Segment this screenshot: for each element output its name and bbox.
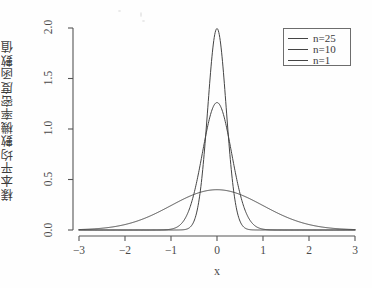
- scan-artifact: [142, 20, 145, 22]
- x-tick-label-3: 0: [208, 244, 226, 256]
- y-tick-label-0: 0.0: [42, 218, 54, 242]
- y-tick-label-4: 2.0: [42, 15, 54, 39]
- y-tick-label-1: 0.5: [42, 167, 54, 191]
- x-axis-title: x: [203, 264, 231, 279]
- scan-artifact: [140, 12, 142, 17]
- x-tick-label-4: 1: [254, 244, 272, 256]
- x-tick-label-0: −3: [70, 244, 88, 256]
- legend-label-2: n=1: [313, 55, 330, 66]
- legend-line-icon: [288, 38, 308, 39]
- legend-line-icon: [288, 60, 308, 61]
- chart-figure: 0.0 0.5 1.0 1.5 2.0 −3 −2 −1 0 1 2 3 x 樣…: [0, 0, 372, 288]
- legend-line-icon: [288, 49, 308, 50]
- y-tick-label-3: 1.5: [42, 66, 54, 90]
- x-tick-label-1: −2: [116, 244, 134, 256]
- x-tick-label-5: 2: [300, 244, 318, 256]
- y-tick-label-2: 1.0: [42, 116, 54, 140]
- y-axis-title: 樣本平均數機率密度函數值: [2, 40, 24, 201]
- scan-artifact: [118, 10, 121, 12]
- x-tick-label-2: −1: [162, 244, 180, 256]
- legend: n=25 n=10 n=1: [283, 28, 351, 66]
- x-tick-label-6: 3: [346, 244, 364, 256]
- legend-item-2: n=1: [288, 55, 330, 66]
